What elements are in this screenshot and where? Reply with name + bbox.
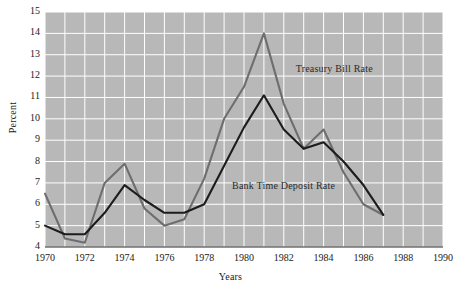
- y-tick-10: 10: [10, 112, 40, 123]
- y-tick-11: 11: [10, 90, 40, 101]
- y-tick-14: 14: [10, 26, 40, 37]
- series-label-bank-time-deposit-rate: Bank Time Deposit Rate: [232, 180, 335, 191]
- y-tick-13: 13: [10, 48, 40, 59]
- x-tick-1990: 1990: [420, 252, 461, 263]
- series-label-treasury-bill-rate: Treasury Bill Rate: [296, 63, 373, 74]
- chart-figure: Percent Years 456789101112131415 1970197…: [0, 0, 461, 290]
- y-tick-8: 8: [10, 155, 40, 166]
- y-tick-15: 15: [10, 5, 40, 16]
- y-tick-5: 5: [10, 219, 40, 230]
- y-tick-9: 9: [10, 133, 40, 144]
- y-tick-7: 7: [10, 176, 40, 187]
- plot-area: [0, 0, 461, 290]
- y-tick-4: 4: [10, 240, 40, 251]
- x-axis-label: Years: [0, 271, 461, 282]
- y-tick-12: 12: [10, 69, 40, 80]
- y-tick-6: 6: [10, 197, 40, 208]
